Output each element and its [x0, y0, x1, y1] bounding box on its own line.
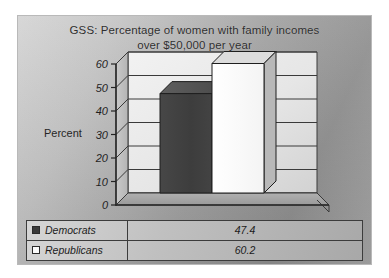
legend-row-republicans[interactable]: Republicans 60.2 [27, 241, 362, 261]
y-tick-50: 50 [0, 82, 108, 94]
legend-data-table: Democrats 47.4 Republicans 60.2 [26, 220, 363, 261]
filled-dark-square-icon [32, 226, 40, 234]
legend-value-democrats: 47.4 [128, 221, 362, 240]
legend-label-republicans: Republicans [45, 244, 103, 256]
empty-white-square-icon [32, 246, 40, 254]
legend-label-democrats: Democrats [45, 224, 96, 236]
legend-name-cell-republicans: Republicans [27, 241, 128, 261]
y-tick-30: 30 [0, 129, 108, 141]
y-tick-60: 60 [0, 58, 108, 70]
legend-row-democrats[interactable]: Democrats 47.4 [27, 221, 362, 241]
y-tick-10: 10 [0, 176, 108, 188]
y-tick-40: 40 [0, 105, 108, 117]
legend-name-cell-democrats: Democrats [27, 221, 128, 240]
screenshot-root: GSS: Percentage of women with family inc… [0, 0, 389, 278]
legend-value-republicans: 60.2 [128, 241, 362, 261]
y-tick-20: 20 [0, 152, 108, 164]
y-tick-0: 0 [0, 199, 108, 211]
